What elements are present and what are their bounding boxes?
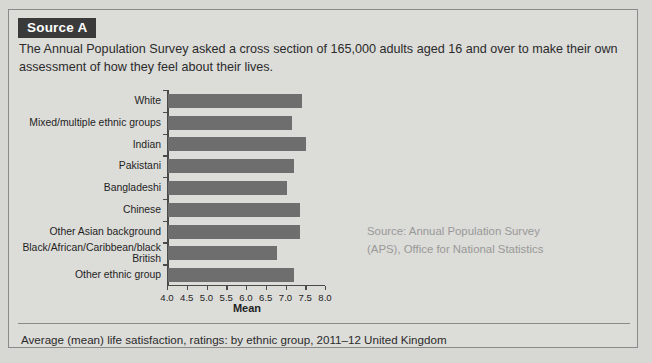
y-axis-label: Other ethnic group: [15, 269, 161, 281]
x-axis-tick: [305, 286, 306, 290]
y-axis-label: Indian: [15, 139, 161, 151]
y-axis-tick: [163, 155, 167, 156]
y-axis-label: Black/African/Caribbean/black British: [15, 242, 161, 265]
bar: [168, 159, 294, 173]
y-axis-tick: [163, 134, 167, 135]
x-axis-tick: [226, 286, 227, 290]
x-axis-tick: [207, 286, 208, 290]
y-axis-tick: [163, 90, 167, 91]
bar-chart: WhiteMixed/multiple ethnic groupsIndianP…: [15, 90, 355, 320]
figure-caption: Average (mean) life satisfaction, rating…: [21, 332, 631, 347]
chart-y-axis-labels: WhiteMixed/multiple ethnic groupsIndianP…: [15, 90, 161, 286]
x-axis-title: Mean: [167, 302, 327, 314]
x-axis-tick: [266, 286, 267, 290]
attribution-line-2: (APS), Office for National Statistics: [367, 240, 617, 258]
source-badge: Source A: [18, 18, 96, 38]
y-axis-label: Pakistani: [15, 160, 161, 172]
chart-attribution: Source: Annual Population Survey (APS), …: [367, 222, 617, 258]
y-axis-tick: [163, 177, 167, 178]
attribution-line-1: Source: Annual Population Survey: [367, 222, 617, 240]
bar: [168, 268, 294, 282]
y-axis-label: Bangladeshi: [15, 182, 161, 194]
bar: [168, 137, 306, 151]
y-axis-label: Other Asian background: [15, 226, 161, 238]
bar: [168, 203, 300, 217]
x-axis-tick: [246, 286, 247, 290]
y-axis-tick: [163, 221, 167, 222]
bar: [168, 94, 302, 108]
bar: [168, 116, 292, 130]
y-axis-label: White: [15, 95, 161, 107]
source-panel: Source A The Annual Population Survey as…: [8, 9, 638, 348]
y-axis-label: Chinese: [15, 204, 161, 216]
y-axis-tick: [163, 242, 167, 243]
x-axis-tick: [325, 286, 326, 290]
caption-divider: [18, 323, 630, 324]
y-axis-label: Mixed/multiple ethnic groups: [15, 117, 161, 129]
source-page: Source A The Annual Population Survey as…: [0, 0, 652, 363]
bar: [168, 225, 300, 239]
intro-paragraph: The Annual Population Survey asked a cro…: [19, 41, 627, 76]
x-axis-tick: [167, 286, 168, 290]
chart-plot-area: 4.04.55.05.56.06.57.07.58.0: [167, 90, 327, 286]
y-axis-tick: [163, 264, 167, 265]
bar: [168, 181, 287, 195]
bar: [168, 246, 277, 260]
x-axis-tick: [187, 286, 188, 290]
y-axis-tick: [163, 112, 167, 113]
x-axis-tick: [286, 286, 287, 290]
y-axis-tick: [163, 199, 167, 200]
